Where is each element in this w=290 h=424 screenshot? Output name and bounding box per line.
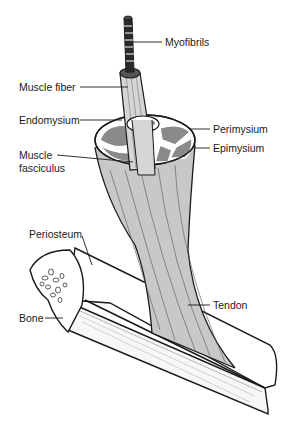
label-tendon: Tendon — [213, 299, 247, 311]
label-myofibrils: Myofibrils — [165, 36, 209, 48]
label-bone: Bone — [19, 312, 44, 324]
label-periosteum: Periosteum — [29, 228, 82, 240]
diagram-artwork — [0, 0, 290, 424]
myofibril-illustration — [124, 16, 134, 72]
label-muscle-fasciculus-line2: fasciculus — [19, 162, 65, 174]
label-muscle-fasciculus-line1: Muscle — [19, 149, 52, 161]
label-endomysium: Endomysium — [19, 114, 80, 126]
label-muscle-fiber: Muscle fiber — [19, 81, 76, 93]
label-epimysium: Epimysium — [213, 142, 264, 154]
muscle-anatomy-diagram: Myofibrils Muscle fiber Endomysium Perim… — [0, 0, 290, 424]
label-perimysium: Perimysium — [213, 123, 268, 135]
